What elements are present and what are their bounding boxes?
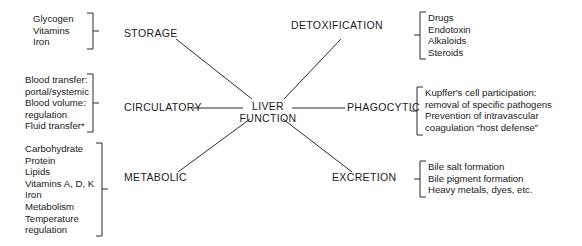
node-circulatory: CIRCULATORY [124, 102, 202, 114]
circulatory-bracket [86, 73, 100, 133]
list-item: coagulation “host defense” [425, 122, 552, 134]
node-storage-label: STORAGE [124, 27, 178, 39]
list-item: Alkaloids [428, 35, 471, 47]
list-item: Blood transfer: [25, 74, 89, 86]
list-item: Drugs [428, 12, 471, 24]
circulatory-details-list: Blood transfer: portal/systemic Blood vo… [25, 74, 89, 132]
list-item: Kupffer's cell participation: [425, 87, 552, 99]
center-node: LIVER FUNCTION [239, 100, 297, 124]
list-item: Endotoxin [428, 24, 471, 36]
node-storage: STORAGE [124, 28, 178, 40]
list-item: Iron [33, 36, 74, 48]
connector-detoxification [284, 39, 341, 99]
node-phagocytic-label: PHAGOCYTIC [347, 101, 420, 113]
node-phagocytic: PHAGOCYTIC [347, 102, 420, 114]
list-item: portal/systemic [25, 86, 89, 98]
center-node-line2: FUNCTION [239, 112, 296, 124]
list-item: removal of specific pathogens [425, 99, 552, 111]
metabolic-details-list: Carbohydrate Protein Lipids Vitamins A, … [25, 143, 94, 236]
list-item: Vitamins A, D, K [25, 178, 94, 190]
connector-storage [176, 39, 252, 99]
list-item: Bile pigment formation [428, 173, 533, 185]
node-metabolic-label: METABOLIC [124, 171, 187, 183]
connector-excretion [283, 119, 352, 172]
storage-bracket [86, 12, 100, 50]
node-excretion: EXCRETION [332, 172, 396, 184]
list-item: Iron [25, 189, 94, 201]
list-item: Glycogen [33, 13, 74, 25]
list-item: Carbohydrate [25, 143, 94, 155]
node-excretion-label: EXCRETION [332, 171, 396, 183]
list-item: Protein [25, 155, 94, 167]
node-detoxification: DETOXIFICATION [291, 20, 383, 32]
storage-details-list: Glycogen Vitamins Iron [33, 13, 74, 48]
detoxification-bracket [413, 11, 427, 60]
list-item: Lipids [25, 166, 94, 178]
list-item: Blood volume: [25, 97, 89, 109]
connector-metabolic [178, 119, 250, 172]
list-item: Vitamins [33, 25, 74, 37]
list-item: Metabolism [25, 201, 94, 213]
detoxification-details-list: Drugs Endotoxin Alkaloids Steroids [428, 12, 471, 58]
metabolic-bracket [95, 142, 109, 237]
list-item: Heavy metals, dyes, etc. [428, 184, 533, 196]
excretion-details-list: Bile salt formation Bile pigment formati… [428, 161, 533, 196]
list-item: Bile salt formation [428, 161, 533, 173]
phagocytic-details-list: Kupffer's cell participation: removal of… [425, 87, 552, 133]
node-detoxification-label: DETOXIFICATION [291, 19, 383, 31]
phagocytic-bracket [410, 86, 424, 136]
list-item: Temperature [25, 213, 94, 225]
list-item: Steroids [428, 47, 471, 59]
node-metabolic: METABOLIC [124, 172, 187, 184]
list-item: regulation [25, 109, 89, 121]
excretion-bracket [413, 160, 427, 198]
liver-function-diagram: LIVER FUNCTION STORAGE DETOXIFICATION CI… [0, 0, 582, 246]
center-node-line1: LIVER [252, 100, 284, 112]
list-item: Prevention of intravascular [425, 110, 552, 122]
node-circulatory-label: CIRCULATORY [124, 101, 202, 113]
list-item: regulation [25, 224, 94, 236]
list-item: Fluid transfer* [25, 120, 89, 132]
